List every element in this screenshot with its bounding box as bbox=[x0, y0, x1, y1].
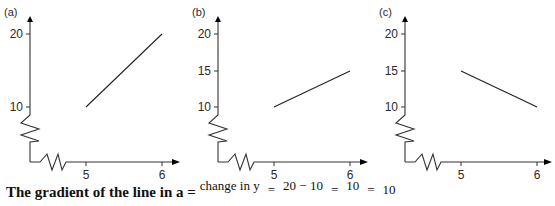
data-line bbox=[461, 71, 537, 107]
y-tick-label: 10 bbox=[385, 100, 399, 114]
equals-sign: = bbox=[331, 182, 338, 198]
caption-lead: The gradient of the line in a = bbox=[6, 184, 196, 201]
x-axis-arrow-icon bbox=[544, 159, 552, 165]
y-axis-arrow-icon bbox=[27, 16, 33, 22]
y-axis bbox=[209, 20, 227, 162]
x-tick-label: 5 bbox=[271, 168, 278, 182]
x-tick-label: 5 bbox=[458, 168, 465, 182]
gradient-result: 10 bbox=[383, 182, 396, 198]
data-line bbox=[274, 71, 350, 107]
x-axis-arrow-icon bbox=[172, 159, 180, 165]
fraction-numerator: 20 − 10 bbox=[283, 179, 323, 193]
gradient-charts: (a)561020(b)56101520(c)56101520 bbox=[0, 0, 555, 184]
gradient-caption: The gradient of the line in a = change i… bbox=[6, 184, 400, 201]
fraction-numerator: 10 bbox=[346, 179, 359, 193]
y-tick-label: 10 bbox=[198, 100, 212, 114]
y-axis-arrow-icon bbox=[402, 16, 408, 22]
fraction-change-in-y: change in y bbox=[200, 179, 260, 193]
equals-sign: = bbox=[367, 182, 374, 198]
x-axis bbox=[30, 154, 172, 170]
y-tick-label: 20 bbox=[10, 27, 24, 41]
y-tick-label: 15 bbox=[198, 64, 212, 78]
x-axis bbox=[218, 154, 360, 170]
y-tick-label: 10 bbox=[10, 100, 24, 114]
fraction-values: 20 − 10 bbox=[283, 179, 323, 193]
y-axis-arrow-icon bbox=[215, 16, 221, 22]
y-axis bbox=[396, 20, 414, 162]
y-tick-label: 20 bbox=[198, 27, 212, 41]
x-tick-label: 5 bbox=[83, 168, 90, 182]
x-axis bbox=[405, 154, 544, 170]
y-tick-label: 15 bbox=[385, 64, 399, 78]
x-axis-arrow-icon bbox=[360, 159, 368, 165]
fraction-result: 10 bbox=[346, 179, 359, 193]
data-line bbox=[86, 34, 162, 107]
x-tick-label: 6 bbox=[159, 168, 166, 182]
fraction-numerator: change in y bbox=[200, 179, 260, 193]
x-tick-label: 6 bbox=[534, 168, 541, 182]
panel-label: (a) bbox=[4, 6, 17, 18]
panel-label: (c) bbox=[379, 6, 392, 18]
y-axis bbox=[21, 20, 39, 162]
equals-sign: = bbox=[268, 182, 275, 198]
y-tick-label: 20 bbox=[385, 27, 399, 41]
panel-label: (b) bbox=[192, 6, 205, 18]
